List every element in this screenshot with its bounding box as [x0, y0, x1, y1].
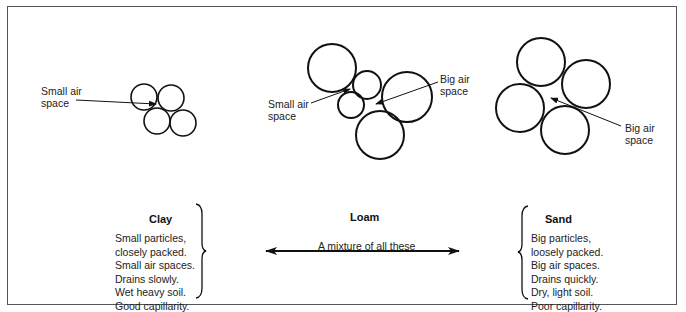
- loam-particles: [308, 44, 432, 159]
- loam-particle-circle: [353, 71, 381, 99]
- loam-title: Loam: [350, 211, 379, 223]
- clay-brace-icon: [196, 204, 206, 298]
- clay-particle-circle: [144, 108, 170, 134]
- sand-big-air-space-label: Big air space: [625, 122, 655, 146]
- sand-property-line: Poor capillarity.: [531, 300, 603, 312]
- loam-particle-circle: [308, 44, 356, 92]
- sand-property-line: Big air spaces.: [531, 259, 603, 273]
- clay-property-line: Small air spaces.: [115, 259, 195, 273]
- clay-property-line: Wet heavy soil.: [115, 286, 195, 300]
- sand-property-line: Big particles,: [531, 232, 603, 246]
- sand-air-space-pointer: [551, 98, 621, 126]
- clay-property-line: closely packed.: [115, 246, 195, 260]
- sand-brace-icon: [518, 206, 528, 299]
- sand-particle-circle: [541, 106, 589, 154]
- sand-particles: [496, 38, 610, 154]
- sand-particle-circle: [517, 38, 565, 86]
- loam-small-air-space-label: Small air space: [268, 98, 309, 122]
- loam-particle-circle: [382, 72, 432, 122]
- clay-title: Clay: [149, 213, 172, 225]
- clay-air-space-pointer: [76, 100, 156, 104]
- loam-description: A mixture of all these: [318, 240, 415, 252]
- sand-property-line: loosely packed.: [531, 246, 603, 260]
- sand-particle-circle: [562, 60, 610, 108]
- sand-particle-circle: [496, 84, 544, 132]
- loam-big-air-space-label: Big air space: [440, 73, 470, 97]
- clay-particle-circle: [131, 84, 157, 110]
- clay-particle-circle: [158, 85, 184, 111]
- clay-properties-list: Small particles,closely packed.Small air…: [115, 232, 195, 312]
- sand-property-line: Drains quickly.: [531, 273, 603, 287]
- sand-properties-list: Big particles,loosely packed.Big air spa…: [531, 232, 603, 312]
- clay-property-line: Small particles,: [115, 232, 195, 246]
- clay-property-line: Good capillarity.: [115, 300, 195, 312]
- clay-particle-circle: [170, 110, 196, 136]
- clay-particles: [131, 84, 196, 136]
- clay-small-air-space-label: Small air space: [41, 85, 82, 109]
- loam-particle-circle: [338, 92, 364, 118]
- clay-property-line: Drains slowly.: [115, 273, 195, 287]
- loam-particle-circle: [356, 111, 404, 159]
- sand-title: Sand: [545, 213, 572, 225]
- sand-property-line: Dry, light soil.: [531, 286, 603, 300]
